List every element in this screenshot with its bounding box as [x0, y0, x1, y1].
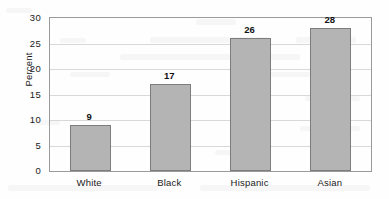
plot-area: [49, 17, 372, 172]
bar-value-label: 26: [244, 24, 255, 35]
x-axis-category-label: Black: [157, 177, 181, 188]
y-axis-tick-label: 25: [30, 37, 41, 48]
bar-value-label: 17: [164, 70, 175, 81]
y-axis-tick-label: 10: [30, 114, 41, 125]
bar: [150, 84, 191, 171]
bar-value-label: 28: [324, 14, 335, 25]
scan-artifact: [6, 8, 32, 13]
y-axis-tick-label: 20: [30, 63, 41, 74]
bar-value-label: 9: [86, 111, 91, 122]
bar-chart-figure: Percent 051015202530 9White17Black26Hisp…: [0, 0, 389, 199]
bar: [70, 125, 111, 171]
y-axis-tick-label: 15: [30, 88, 41, 99]
y-axis-tick-label: 5: [35, 139, 41, 150]
y-axis-tick-label: 30: [30, 12, 41, 23]
x-axis-category-label: White: [76, 177, 101, 188]
x-axis-category-label: Hispanic: [231, 177, 269, 188]
bar: [310, 28, 351, 171]
y-axis-tick-labels: 051015202530: [0, 17, 45, 172]
bar: [230, 38, 271, 171]
x-axis-category-label: Asian: [317, 177, 342, 188]
scan-artifact: [200, 185, 370, 191]
y-axis-tick-label: 0: [35, 165, 41, 176]
